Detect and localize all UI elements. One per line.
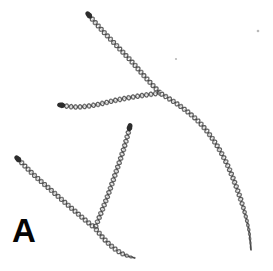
background-speck-2	[175, 58, 177, 60]
background-speck-1	[257, 30, 260, 33]
figure-background	[0, 0, 273, 271]
micrograph-figure-panel: A	[0, 0, 273, 271]
micrograph-image	[0, 0, 273, 271]
panel-label: A	[12, 214, 36, 247]
